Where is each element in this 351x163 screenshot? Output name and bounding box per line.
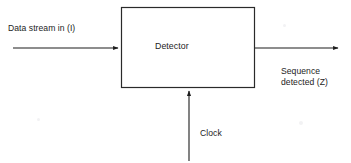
- output-signal-label: Sequencedetected (Z): [281, 66, 328, 88]
- diagram-canvas: Data stream in (I) Detector Sequencedete…: [0, 0, 351, 163]
- input-signal-label: Data stream in (I): [8, 23, 75, 34]
- detector-block-label: Detector: [155, 41, 189, 52]
- clock-signal-label: Clock: [200, 128, 222, 139]
- output-signal-label-line2: detected (Z): [281, 77, 328, 87]
- scan-artifact: [37, 118, 40, 121]
- output-signal-label-line1: Sequence: [281, 66, 320, 76]
- scan-artifact: [283, 24, 286, 27]
- scan-artifact: [299, 121, 303, 125]
